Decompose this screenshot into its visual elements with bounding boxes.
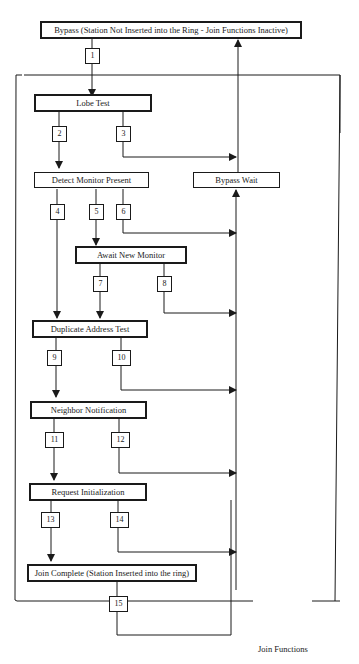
transition-label-10: 10 <box>112 350 131 366</box>
transition-label-9: 9 <box>47 350 62 366</box>
transition-label-12: 12 <box>111 432 130 448</box>
transition-label-3: 3 <box>116 126 131 142</box>
state-lobe-test: Lobe Test <box>34 94 152 112</box>
transition-label-8: 8 <box>157 276 172 292</box>
transition-label-1: 1 <box>85 48 100 64</box>
transition-label-5: 5 <box>89 204 104 220</box>
state-detect-monitor-present: Detect Monitor Present <box>34 172 149 188</box>
transition-label-15: 15 <box>109 596 128 612</box>
state-neighbor-notification: Neighbor Notification <box>30 401 147 419</box>
transition-label-2: 2 <box>52 126 67 142</box>
transition-label-14: 14 <box>110 512 129 528</box>
transition-label-7: 7 <box>93 276 108 292</box>
state-join-complete: Join Complete (Station Inserted into the… <box>27 564 197 582</box>
transition-label-13: 13 <box>41 512 60 528</box>
transition-label-6: 6 <box>116 204 131 220</box>
state-request-initialization: Request Initialization <box>29 483 147 501</box>
state-await-new-monitor: Await New Monitor <box>75 246 187 264</box>
transition-label-11: 11 <box>45 432 64 448</box>
state-duplicate-address-test: Duplicate Address Test <box>32 320 148 338</box>
transition-label-4: 4 <box>50 204 65 220</box>
state-bypass: Bypass (Station Not Inserted into the Ri… <box>40 21 302 39</box>
state-bypass-wait: Bypass Wait <box>193 172 280 188</box>
frame-label-join-functions: Join Functions <box>256 644 310 654</box>
